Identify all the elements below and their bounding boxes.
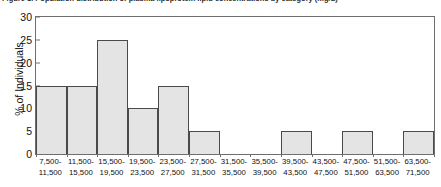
x-axis-tick-label-lower: 7,500- (35, 157, 66, 168)
histogram-bar (189, 131, 220, 154)
x-axis-tick-label-upper: 19,500 (96, 168, 127, 179)
y-axis-tick-label: 15 (20, 80, 32, 91)
y-axis-tick-label: 5 (26, 126, 32, 137)
x-axis-tick-label-lower: 19,500- (127, 157, 158, 168)
plot-frame: 051015202530 (35, 16, 435, 155)
x-axis-tick-label: 31,500-35,500 (219, 157, 250, 178)
y-axis-tick-mark (36, 17, 40, 18)
plot-area: 051015202530 (36, 17, 434, 154)
x-axis-tick-label: 11,500-15,500 (66, 157, 97, 178)
x-axis-tick-label-upper: 39,500 (249, 168, 280, 179)
x-axis-tick-label: 7,500-11,500 (35, 157, 66, 178)
histogram-bar (67, 86, 98, 155)
x-axis-tick-label-lower: 39,500- (280, 157, 311, 168)
histogram-bar (128, 108, 159, 154)
histogram-bar (403, 131, 434, 154)
x-axis-tick-label-lower: 23,500- (157, 157, 188, 168)
histogram-bar (281, 131, 312, 154)
x-axis-tick-label: 35,500-39,500 (249, 157, 280, 178)
x-axis-tick-label-upper: 27,500 (157, 168, 188, 179)
x-axis-tick-label: 47,500-51,500 (341, 157, 372, 178)
x-axis-tick-label: 19,500-23,500 (127, 157, 158, 178)
x-axis-tick-label: 23,500-27,500 (157, 157, 188, 178)
y-axis-tick-mark (36, 62, 40, 63)
x-axis-tick-label-upper: 47,500 (311, 168, 342, 179)
x-axis-tick-label-lower: 35,500- (249, 157, 280, 168)
x-axis-tick-label: 27,500-31,500 (188, 157, 219, 178)
x-axis-tick-label-lower: 43,500- (311, 157, 342, 168)
x-axis-tick-label-lower: 51,500- (372, 157, 403, 168)
x-axis-tick-label-lower: 11,500- (66, 157, 97, 168)
y-axis-tick-mark (36, 39, 40, 40)
x-axis-tick-label: 43,500-47,500 (311, 157, 342, 178)
y-axis-tick-label: 25 (20, 35, 32, 46)
x-axis-tick-label-upper: 31,500 (188, 168, 219, 179)
x-axis-tick-label-upper: 71,500 (402, 168, 433, 179)
x-axis-tick-label-lower: 31,500- (219, 157, 250, 168)
x-axis-tick-labels: 7,500-11,50011,500-15,50015,500-19,50019… (35, 157, 435, 183)
histogram-bar (97, 40, 128, 154)
x-axis-tick-label-lower: 15,500- (96, 157, 127, 168)
y-axis-tick-label: 10 (20, 103, 32, 114)
x-axis-tick-label: 15,500-19,500 (96, 157, 127, 178)
x-axis-tick-label-upper: 51,500 (341, 168, 372, 179)
x-axis-tick-label: 39,500-43,500 (280, 157, 311, 178)
histogram-bar (36, 86, 67, 155)
x-axis-tick-label-upper: 63,500 (372, 168, 403, 179)
y-axis-tick-label: 30 (20, 12, 32, 23)
y-axis-tick-label: 20 (20, 57, 32, 68)
histogram-bar (342, 131, 373, 154)
y-axis-tick-label: 0 (26, 149, 32, 160)
histogram-figure: % of Individuals 051015202530 7,500-11,5… (0, 0, 441, 187)
x-axis-tick-label: 51,500-63,500 (372, 157, 403, 178)
x-axis-tick-label: 63,500-71,500 (402, 157, 433, 178)
x-axis-tick-label-upper: 11,500 (35, 168, 66, 179)
x-axis-tick-label-upper: 35,500 (219, 168, 250, 179)
x-axis-tick-label-lower: 27,500- (188, 157, 219, 168)
x-axis-tick-label-lower: 63,500- (402, 157, 433, 168)
histogram-bar (158, 86, 189, 155)
x-axis-tick-label-lower: 47,500- (341, 157, 372, 168)
x-axis-tick-label-upper: 43,500 (280, 168, 311, 179)
x-axis-tick-label-upper: 15,500 (66, 168, 97, 179)
x-axis-tick-label-upper: 23,500 (127, 168, 158, 179)
